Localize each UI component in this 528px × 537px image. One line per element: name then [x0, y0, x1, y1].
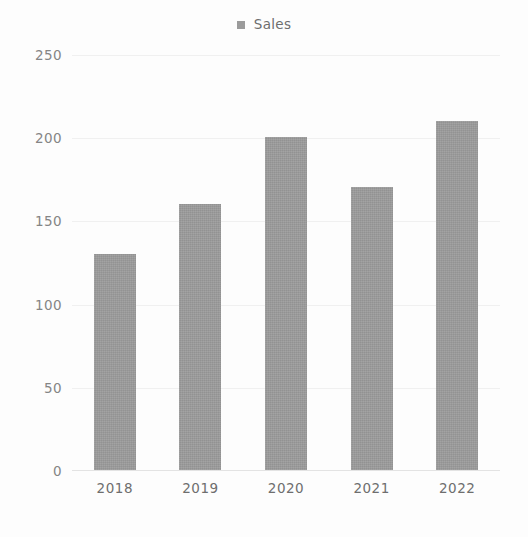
bar-2022[interactable] — [436, 121, 478, 470]
y-axis-labels: 0 50 100 150 200 250 — [0, 55, 62, 471]
x-axis-labels: 2018 2019 2020 2021 2022 — [72, 478, 500, 497]
chart-legend: Sales — [0, 18, 528, 32]
x-tick-2020: 2020 — [268, 480, 304, 496]
bar-slot-2021 — [329, 55, 415, 470]
bar-slot-2018 — [72, 55, 158, 470]
bar-2018[interactable] — [94, 254, 136, 470]
y-tick-50: 50 — [0, 380, 62, 396]
x-slot-2021: 2021 — [329, 478, 415, 497]
bar-chart: Sales 0 50 100 150 200 250 — [0, 0, 528, 537]
plot-area — [72, 55, 500, 471]
bar-slot-2019 — [158, 55, 244, 470]
x-slot-2018: 2018 — [72, 478, 158, 497]
x-tick-2019: 2019 — [182, 480, 218, 496]
x-tick-2022: 2022 — [439, 480, 475, 496]
x-tick-2018: 2018 — [97, 480, 133, 496]
y-tick-0: 0 — [0, 463, 62, 479]
bar-group — [72, 55, 500, 470]
y-tick-250: 250 — [0, 47, 62, 63]
x-slot-2020: 2020 — [243, 478, 329, 497]
legend-label: Sales — [254, 18, 291, 32]
y-tick-100: 100 — [0, 297, 62, 313]
x-slot-2022: 2022 — [414, 478, 500, 497]
x-axis-line — [72, 470, 500, 471]
legend-swatch-icon — [237, 21, 245, 29]
bar-2020[interactable] — [265, 137, 307, 470]
x-slot-2019: 2019 — [158, 478, 244, 497]
bar-2021[interactable] — [351, 187, 393, 470]
y-tick-150: 150 — [0, 213, 62, 229]
bar-2019[interactable] — [179, 204, 221, 470]
x-tick-2021: 2021 — [353, 480, 389, 496]
bar-slot-2022 — [414, 55, 500, 470]
y-tick-200: 200 — [0, 130, 62, 146]
bar-slot-2020 — [243, 55, 329, 470]
legend-item-sales[interactable]: Sales — [237, 18, 291, 32]
